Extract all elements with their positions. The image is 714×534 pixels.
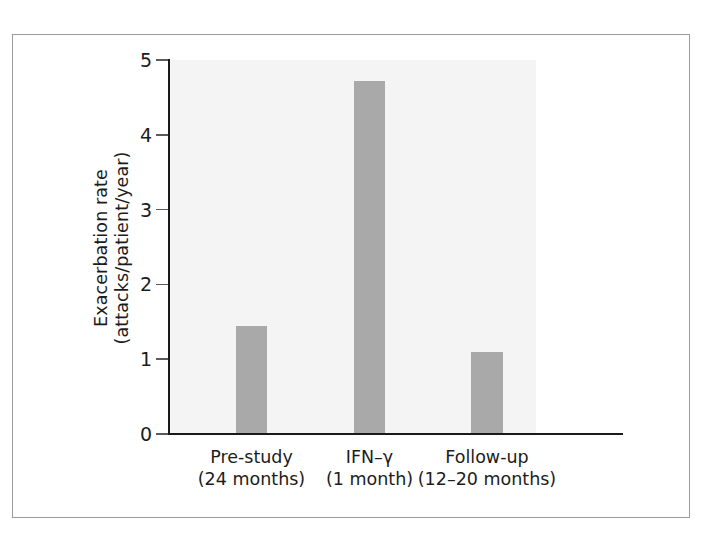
x-axis-line	[168, 433, 623, 435]
y-axis-tick-mark	[156, 358, 168, 360]
y-axis-tick-label: 5	[112, 49, 152, 71]
x-axis-category-label-line2: (12–20 months)	[397, 468, 577, 490]
bar-follow-up	[471, 352, 503, 434]
y-axis-line	[168, 59, 170, 435]
x-axis-category-label-line1: Follow-up	[397, 446, 577, 468]
x-axis-category-label: Follow-up(12–20 months)	[397, 446, 577, 491]
figure-container: Exacerbation rate (attacks/patient/year)…	[0, 0, 714, 534]
bar-ifn-gamma	[354, 81, 385, 434]
y-axis-tick-label: 2	[112, 273, 152, 295]
y-axis-tick-mark	[156, 59, 168, 61]
y-axis-tick-label: 0	[112, 423, 152, 445]
y-axis-tick-mark	[156, 284, 168, 286]
y-axis-tick-label: 4	[112, 124, 152, 146]
plot-area	[170, 60, 536, 434]
bar-pre-study	[236, 326, 267, 434]
y-axis-tick-label: 3	[112, 199, 152, 221]
y-axis-tick-mark	[156, 134, 168, 136]
y-axis-tick-mark	[156, 433, 168, 435]
y-axis-tick-label: 1	[112, 348, 152, 370]
y-axis-tick-mark	[156, 209, 168, 211]
